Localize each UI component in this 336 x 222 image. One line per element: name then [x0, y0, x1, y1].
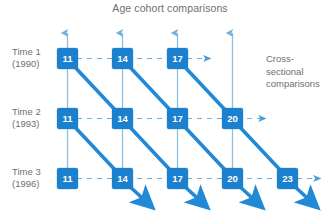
age-node: 14: [112, 48, 133, 69]
age-node: 11: [57, 48, 78, 69]
age-node: 14: [112, 108, 133, 129]
cross-sectional-line-3: comparisons: [266, 78, 336, 91]
row-label-time-1-name: Time 1: [12, 46, 62, 58]
row-label-time-3-year: (1996): [12, 178, 62, 190]
cross-sectional-annotation: Cross- sectional comparisons: [266, 53, 336, 91]
vertical-time-arrows: [68, 33, 233, 179]
age-node: 11: [57, 108, 78, 129]
diagram-canvas: Age cohort comparisons Cross- sectional …: [0, 0, 336, 222]
row-label-time-2: Time 2 (1993): [12, 106, 62, 130]
age-node: 14: [112, 168, 133, 189]
row-label-time-1: Time 1 (1990): [12, 46, 62, 70]
row-label-time-1-year: (1990): [12, 58, 62, 70]
cross-sectional-line-2: sectional: [266, 66, 336, 79]
age-node: 17: [167, 168, 188, 189]
row-label-time-3-name: Time 3: [12, 166, 62, 178]
cross-sectional-line-1: Cross-: [266, 53, 336, 66]
age-node: 17: [167, 108, 188, 129]
age-node: 17: [167, 48, 188, 69]
row-label-time-2-year: (1993): [12, 118, 62, 130]
age-node: 20: [222, 108, 243, 129]
row-label-time-3: Time 3 (1996): [12, 166, 62, 190]
age-node: 20: [222, 168, 243, 189]
age-node: 11: [57, 168, 78, 189]
age-node: 23: [277, 168, 298, 189]
row-label-time-2-name: Time 2: [12, 106, 62, 118]
diagram-title: Age cohort comparisons: [70, 2, 270, 14]
